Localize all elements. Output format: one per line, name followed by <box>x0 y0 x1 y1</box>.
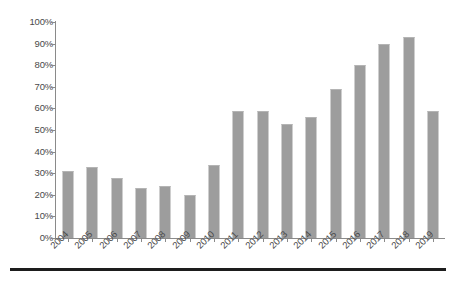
x-tick-mark <box>384 238 385 242</box>
bar-slot <box>129 22 153 238</box>
bar-slot <box>421 22 445 238</box>
bar[interactable] <box>257 111 268 238</box>
bottom-rule-divider <box>10 268 446 271</box>
y-tick-mark <box>51 108 55 109</box>
y-tick-mark <box>51 65 55 66</box>
bar[interactable] <box>330 89 341 238</box>
y-tick-label: 100% <box>7 17 53 27</box>
x-tick-mark <box>92 238 93 242</box>
x-tick-mark <box>238 238 239 242</box>
x-tick-mark <box>433 238 434 242</box>
bar[interactable] <box>233 111 244 238</box>
y-tick-label: 60% <box>7 103 53 113</box>
y-tick-mark <box>51 216 55 217</box>
bar-slot <box>396 22 420 238</box>
bar-slot <box>299 22 323 238</box>
plot-area <box>56 22 445 238</box>
y-axis-tick-labels: 0%10%20%30%40%50%60%70%80%90%100% <box>3 0 53 282</box>
y-tick-mark <box>51 22 55 23</box>
bar-slot <box>105 22 129 238</box>
bar-slot <box>56 22 80 238</box>
bar-slot <box>226 22 250 238</box>
bar[interactable] <box>281 124 292 238</box>
y-tick-label: 0% <box>7 233 53 243</box>
bar[interactable] <box>87 167 98 238</box>
bar[interactable] <box>306 117 317 238</box>
y-tick-label: 90% <box>7 39 53 49</box>
y-tick-mark <box>51 87 55 88</box>
y-tick-label: 80% <box>7 60 53 70</box>
y-tick-label: 10% <box>7 211 53 221</box>
bar[interactable] <box>354 65 365 238</box>
bar-slot <box>80 22 104 238</box>
y-tick-label: 50% <box>7 125 53 135</box>
y-tick-mark <box>51 173 55 174</box>
bar-chart-figure: 0%10%20%30%40%50%60%70%80%90%100% 200420… <box>0 0 455 282</box>
y-tick-mark <box>51 195 55 196</box>
y-tick-label: 30% <box>7 168 53 178</box>
x-tick-mark <box>287 238 288 242</box>
x-tick-mark <box>214 238 215 242</box>
bar[interactable] <box>379 44 390 238</box>
bar[interactable] <box>427 111 438 238</box>
x-tick-mark <box>165 238 166 242</box>
y-tick-label: 40% <box>7 147 53 157</box>
bar-slot <box>372 22 396 238</box>
bar-slot <box>348 22 372 238</box>
bar-slot <box>323 22 347 238</box>
bar[interactable] <box>403 37 414 238</box>
bar-slot <box>251 22 275 238</box>
bar-slot <box>275 22 299 238</box>
bar[interactable] <box>209 165 220 238</box>
bar[interactable] <box>63 171 74 238</box>
bar-slot <box>202 22 226 238</box>
bar-slot <box>178 22 202 238</box>
bar[interactable] <box>111 178 122 238</box>
bar-slot <box>153 22 177 238</box>
y-tick-mark <box>51 152 55 153</box>
y-tick-mark <box>51 130 55 131</box>
x-tick-mark <box>360 238 361 242</box>
y-tick-mark <box>51 44 55 45</box>
x-tick-mark <box>68 238 69 242</box>
y-tick-label: 20% <box>7 190 53 200</box>
x-tick-mark <box>311 238 312 242</box>
x-tick-mark <box>141 238 142 242</box>
y-tick-label: 70% <box>7 82 53 92</box>
